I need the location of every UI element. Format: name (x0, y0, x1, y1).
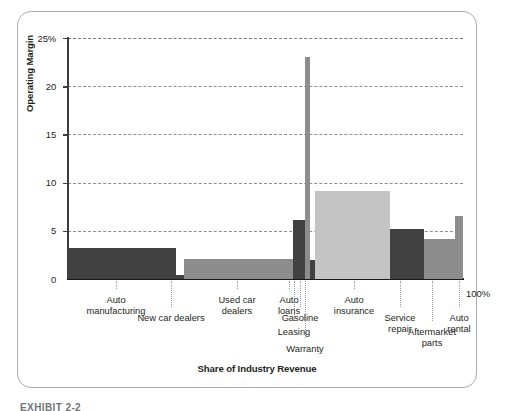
bar-service-repair (390, 229, 424, 279)
leader-line-used-car-dealers (237, 281, 238, 289)
bar-used-car-dealers (184, 259, 293, 279)
figure-caption: EXHIBIT 2-2 (20, 402, 81, 411)
y-axis-title: Operating Margin (24, 35, 35, 112)
leader-line-auto-manufacturing (116, 281, 117, 289)
bar-gasoline (305, 57, 310, 279)
category-label-used-car-dealers: Used car dealers (207, 295, 267, 316)
bar-auto-manufacturing (68, 248, 176, 279)
y-tick-label: 25% (28, 33, 56, 44)
leader-line-service-repair (400, 281, 401, 307)
leader-line-auto-rental (459, 281, 460, 307)
x-axis-title: Share of Industry Revenue (0, 363, 514, 374)
y-tick-label: 20 (28, 81, 56, 92)
leader-line-new-car-dealers (171, 281, 172, 307)
category-label-leasing: Leasing (273, 327, 315, 338)
leader-line-auto-loans (289, 281, 290, 289)
bar-auto-insurance (315, 191, 390, 279)
category-label-gasoline: Gasoline (275, 313, 325, 324)
y-tick-label: 15 (28, 129, 56, 140)
bar-auto-rental (455, 216, 463, 279)
figure-page: Operating Margin 0510152025% Auto manufa… (0, 0, 514, 411)
bar-new-car-dealers (176, 275, 184, 279)
y-tick-label: 10 (28, 177, 56, 188)
leader-line-auto-insurance (354, 281, 355, 289)
leader-line-aftermarket-parts (432, 281, 433, 321)
y-tick-label: 0 (28, 274, 56, 285)
y-tick-label: 5 (28, 225, 56, 236)
bar-aftermarket-parts (424, 239, 455, 279)
category-label-warranty: Warranty (278, 344, 332, 355)
bar-series (68, 38, 463, 279)
category-label-new-car-dealers: New car dealers (128, 313, 214, 324)
category-label-auto-rental: Auto rental (438, 313, 480, 334)
x-axis-end-label: 100% (466, 288, 490, 299)
